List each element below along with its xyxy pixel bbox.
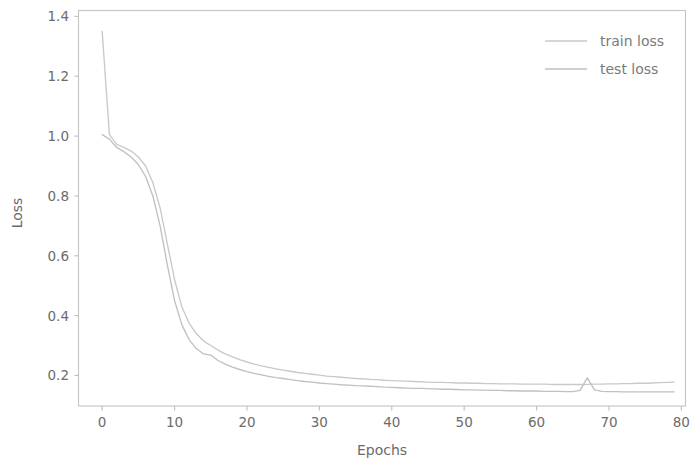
x-tick-label: 80 bbox=[673, 414, 690, 430]
x-tick-label: 40 bbox=[383, 414, 400, 430]
x-tick-label: 10 bbox=[166, 414, 183, 430]
x-axis-tick-labels: 01020304050607080 bbox=[98, 414, 690, 430]
x-tick-label: 30 bbox=[311, 414, 328, 430]
x-axis-title: Epochs bbox=[357, 442, 407, 458]
x-tick-label: 60 bbox=[528, 414, 545, 430]
x-tick-label: 50 bbox=[456, 414, 473, 430]
series-line-test-loss bbox=[102, 135, 674, 392]
y-axis-tick-labels: 0.20.40.60.81.01.21.4 bbox=[48, 8, 69, 383]
legend-label-train-loss: train loss bbox=[600, 33, 664, 49]
plot-spines bbox=[79, 11, 686, 407]
y-tick-label: 0.2 bbox=[48, 367, 69, 383]
x-tick-label: 0 bbox=[98, 414, 107, 430]
chart-canvas: 01020304050607080 0.20.40.60.81.01.21.4 … bbox=[0, 0, 700, 467]
legend: train losstest loss bbox=[545, 33, 664, 77]
y-tick-label: 0.8 bbox=[48, 188, 69, 204]
y-tick-label: 1.4 bbox=[48, 8, 69, 24]
y-axis-title: Loss bbox=[9, 198, 25, 229]
series-line-train-loss bbox=[102, 31, 674, 384]
y-tick-label: 1.2 bbox=[48, 68, 69, 84]
data-series-group bbox=[102, 31, 674, 392]
loss-curve-figure: 01020304050607080 0.20.40.60.81.01.21.4 … bbox=[0, 0, 700, 467]
tick-marks bbox=[75, 16, 682, 410]
y-tick-label: 0.6 bbox=[48, 248, 69, 264]
x-tick-label: 70 bbox=[600, 414, 617, 430]
legend-label-test-loss: test loss bbox=[600, 61, 658, 77]
x-tick-label: 20 bbox=[238, 414, 255, 430]
y-tick-label: 1.0 bbox=[48, 128, 69, 144]
axes-frame bbox=[79, 11, 686, 407]
y-tick-label: 0.4 bbox=[48, 308, 69, 324]
